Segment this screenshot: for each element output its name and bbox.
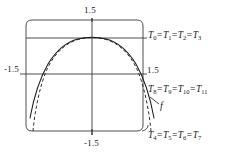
axis-label-bottom: -1.5 bbox=[84, 139, 99, 148]
figure-container: 1.5 -1.5 -1.5 1.5 T0=T1=T2=T3 T8=T9=T10=… bbox=[0, 0, 225, 156]
t11-subscript: 11 bbox=[201, 88, 207, 95]
t3-subscript: 3 bbox=[198, 34, 201, 41]
equals-sign: = bbox=[190, 84, 196, 94]
t0-term: T0 bbox=[148, 30, 157, 40]
t10-term: T10 bbox=[178, 84, 190, 94]
axis-label-top: 1.5 bbox=[84, 6, 96, 15]
equals-sign: = bbox=[171, 130, 177, 140]
equals-sign: = bbox=[171, 30, 177, 40]
f-leader-line bbox=[150, 97, 159, 104]
t10-subscript: 10 bbox=[183, 88, 190, 95]
t4-term: T4 bbox=[148, 130, 157, 140]
equals-sign: = bbox=[186, 30, 192, 40]
t3-term: T3 bbox=[193, 30, 202, 40]
t8-term: T8 bbox=[148, 84, 157, 94]
axis-label-mid-right: 1.5 bbox=[147, 66, 159, 75]
equals-sign: = bbox=[157, 84, 163, 94]
curve-label-f: f bbox=[160, 101, 163, 111]
equals-sign: = bbox=[186, 130, 192, 140]
equals-sign: = bbox=[157, 130, 163, 140]
t7-subscript: 7 bbox=[198, 134, 201, 141]
equals-sign: = bbox=[171, 84, 177, 94]
t11-term: T11 bbox=[196, 84, 208, 94]
t7-term: T7 bbox=[193, 130, 202, 140]
boundary-label-t0-group: T0=T1=T2=T3 bbox=[148, 31, 201, 41]
plot-frame bbox=[26, 20, 143, 131]
boundary-label-t8-group: T8=T9=T10=T11 bbox=[148, 85, 208, 95]
axis-label-left: -1.5 bbox=[4, 65, 19, 74]
equals-sign: = bbox=[157, 30, 163, 40]
boundary-label-t4-group: T4=T5=T6=T7 bbox=[148, 131, 201, 141]
